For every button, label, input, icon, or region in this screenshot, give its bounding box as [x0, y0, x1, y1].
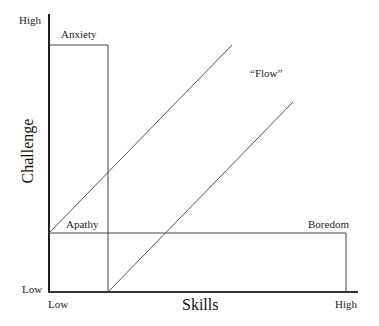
y-axis-low-label: Low: [22, 283, 42, 295]
y-axis-high-label: High: [19, 14, 41, 26]
diagram-lines: [0, 0, 379, 326]
flow-diagram: High Low Low High Skills Challenge Anxie…: [0, 0, 379, 326]
flow-channel-lower: [108, 102, 293, 292]
x-axis-low-label: Low: [48, 298, 68, 310]
anxiety-label: Anxiety: [61, 28, 96, 40]
apathy-label: Apathy: [66, 218, 98, 230]
boredom-boundary: [49, 233, 346, 292]
flow-channel-upper: [49, 45, 232, 233]
x-axis-title: Skills: [182, 296, 218, 314]
boredom-label: Boredom: [308, 218, 349, 230]
flow-label: “Flow”: [250, 67, 282, 79]
x-axis-high-label: High: [335, 298, 357, 310]
anxiety-boundary: [49, 45, 108, 292]
y-axis-title: Challenge: [19, 116, 37, 186]
